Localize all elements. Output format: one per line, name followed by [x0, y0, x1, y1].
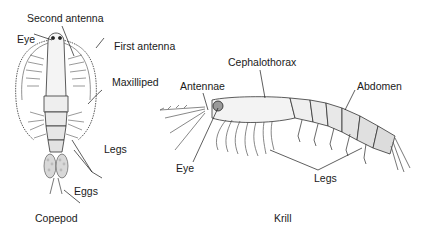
label-maxilliped: Maxilliped [112, 76, 159, 88]
caption-copepod: Copepod [35, 212, 78, 224]
label-cephalothorax: Cephalothorax [228, 56, 296, 68]
crustacean-diagram: Second antenna Eye First antenna Maxilli… [0, 0, 430, 241]
label-antennae: Antennae [180, 80, 225, 92]
label-krill-legs: Legs [314, 172, 337, 184]
label-krill-eye: Eye [176, 162, 194, 174]
label-eggs: Eggs [74, 185, 98, 197]
label-first-antenna: First antenna [114, 40, 175, 52]
copepod-leader-lines [34, 26, 104, 203]
krill-drawing [160, 97, 410, 172]
label-abdomen: Abdomen [357, 80, 402, 92]
label-copepod-legs: Legs [104, 143, 127, 155]
label-second-antenna: Second antenna [27, 12, 103, 24]
caption-krill: Krill [274, 212, 292, 224]
illustration [0, 0, 430, 241]
label-copepod-eye: Eye [17, 33, 35, 45]
copepod-drawing [16, 33, 97, 194]
